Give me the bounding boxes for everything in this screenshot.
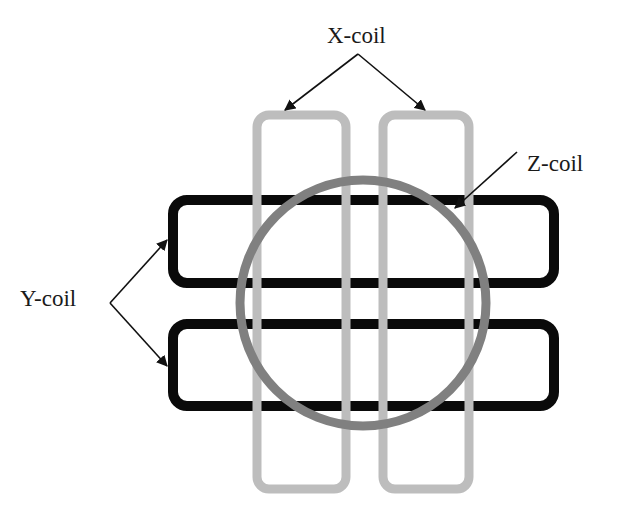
z-coil-loop	[240, 180, 486, 426]
y-coil-bottom-loop	[173, 324, 554, 406]
coil-diagram: X-coil Y-coil Z-coil	[0, 0, 619, 514]
y-coil-label: Y-coil	[20, 286, 76, 311]
x-coil-left-arrow	[285, 54, 358, 110]
x-coil-right-loop	[383, 115, 469, 489]
coil-diagram-canvas: X-coil Y-coil Z-coil	[0, 0, 619, 514]
x-coil-right-arrow	[358, 54, 425, 110]
y-coil-top-arrow	[110, 240, 167, 303]
x-coil-left-loop	[257, 115, 346, 489]
x-coil-group	[257, 115, 469, 489]
y-coil-top-loop	[173, 200, 554, 283]
x-coil-label: X-coil	[327, 23, 386, 48]
z-coil-label: Z-coil	[527, 151, 583, 176]
y-coil-bottom-arrow	[110, 303, 167, 366]
y-coil-group	[173, 200, 554, 406]
